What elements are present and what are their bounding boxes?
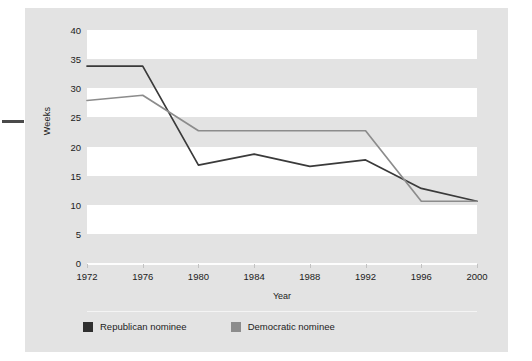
plot-area-wrapper [87,30,477,263]
legend-swatch-icon [231,322,241,332]
x-axis-tick-mark [310,264,311,268]
chart-figure-panel: 0510152025303540 Weeks 19721976198019841… [25,8,508,352]
y-axis-tick: 10 [70,199,81,210]
x-axis-tick: 1980 [188,271,209,282]
x-axis-tick: 1996 [411,271,432,282]
x-axis-tick-labels: 19721976198019841988199219962000 [87,264,477,288]
series-line [87,95,477,201]
y-axis-tick: 25 [70,112,81,123]
x-axis-tick: 1972 [76,271,97,282]
y-axis-tick: 35 [70,54,81,65]
x-axis-tick: 1984 [244,271,265,282]
x-axis-tick-mark [366,264,367,268]
x-axis-label: Year [87,291,477,301]
series-lines [87,30,477,263]
x-axis-tick: 2000 [466,271,487,282]
x-axis-tick: 1988 [299,271,320,282]
plot-area [87,30,477,263]
legend-label: Democratic nominee [248,321,335,332]
x-axis-tick: 1976 [132,271,153,282]
x-axis-tick-mark [143,264,144,268]
chart-legend: Republican nomineeDemocratic nominee [83,321,335,332]
margin-rule-artifact [2,120,24,123]
series-line [87,66,477,201]
y-axis-label: Weeks [42,91,52,151]
y-axis-tick: 0 [76,258,81,269]
y-axis-tick: 30 [70,83,81,94]
legend-item[interactable]: Democratic nominee [231,321,335,332]
x-axis-tick-mark [87,264,88,268]
y-axis-tick: 5 [76,228,81,239]
x-axis-tick-mark [477,264,478,268]
legend-divider [87,311,477,312]
legend-item[interactable]: Republican nominee [83,321,187,332]
x-axis-tick-mark [254,264,255,268]
legend-swatch-icon [83,322,93,332]
y-axis-tick: 20 [70,141,81,152]
x-axis-tick-mark [198,264,199,268]
y-axis-tick-labels: 0510152025303540 [53,30,81,263]
legend-label: Republican nominee [100,321,187,332]
x-axis-tick: 1992 [355,271,376,282]
y-axis-tick: 15 [70,170,81,181]
y-axis-tick: 40 [70,25,81,36]
x-axis-tick-mark [421,264,422,268]
